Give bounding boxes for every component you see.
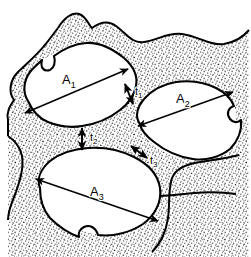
microstructure-figure: A1 A2 A3 t1 t2 t3: [0, 0, 251, 257]
particle-label-a1-subscript: 1: [71, 80, 76, 90]
neck-label-t3-subscript: 3: [153, 160, 158, 169]
neck-label-t1-subscript: 1: [138, 91, 143, 100]
particle-label-a1-letter: A: [62, 72, 71, 87]
figure-canvas: A1 A2 A3 t1 t2 t3: [0, 0, 251, 257]
particle-label-a3-letter: A: [90, 184, 99, 199]
particle-label-a2-letter: A: [176, 91, 185, 106]
particle-label-a3-subscript: 3: [99, 192, 104, 202]
particle-label-a2-subscript: 2: [185, 99, 190, 109]
neck-label-t2-subscript: 2: [93, 137, 98, 146]
